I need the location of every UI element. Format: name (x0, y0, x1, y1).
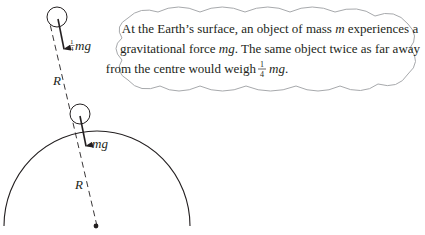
upper-object: 1 4 mg (47, 7, 91, 53)
svg-text:mg.: mg. (269, 61, 288, 76)
callout-line-1: At the Earth’s surface, an object of mas… (122, 21, 419, 36)
callout-line-2: gravitational force mg. The same object … (120, 41, 421, 56)
upper-force-arrow (58, 19, 64, 49)
lower-force-label: mg (92, 136, 108, 151)
upper-force-frac-den: 4 (70, 45, 74, 53)
upper-force-label: mg (75, 38, 91, 53)
upper-radius-label: R (52, 73, 61, 88)
fraction-denominator: 4 (260, 70, 264, 79)
lower-radius-label: R (74, 177, 83, 192)
lower-mass-circle (70, 104, 90, 124)
earth-centre-dot (94, 224, 99, 229)
lower-object: mg (70, 104, 108, 151)
thought-cloud-callout: At the Earth’s surface, an object of mas… (106, 7, 421, 91)
fraction-numerator: 1 (260, 60, 264, 69)
gravity-diagram: At the Earth’s surface, an object of mas… (0, 0, 425, 235)
radius-dashed-line (50, 24, 97, 226)
svg-text:from the centre would weigh: from the centre would weigh (106, 61, 257, 76)
upper-mass-circle (47, 7, 67, 27)
